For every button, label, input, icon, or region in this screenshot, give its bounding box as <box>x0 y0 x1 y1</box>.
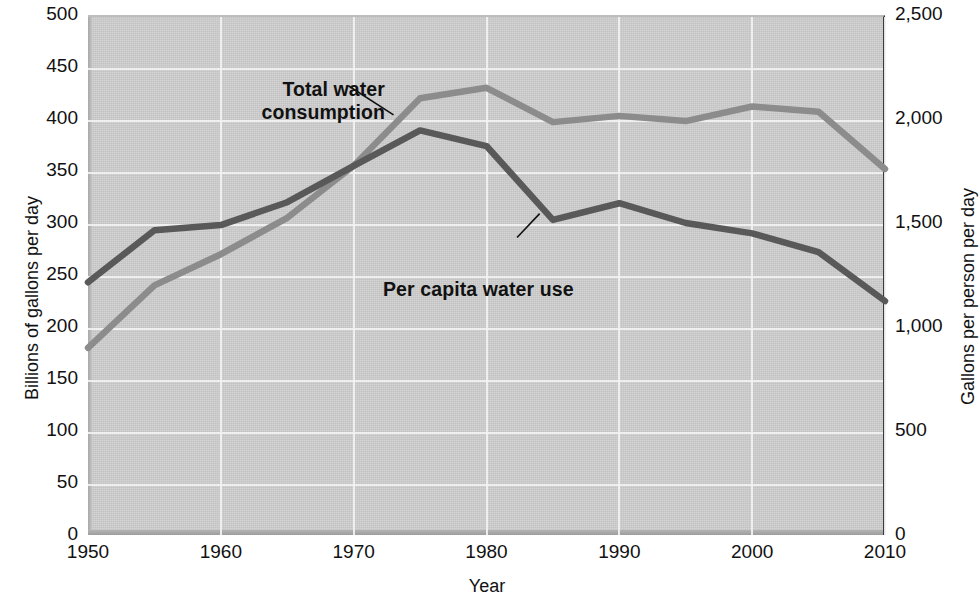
x-axis-tick: 1990 <box>564 541 674 563</box>
left-axis-tick: 500 <box>0 3 78 25</box>
right-axis-tick: 2,000 <box>895 107 975 129</box>
right-axis-tick: 500 <box>895 419 975 441</box>
x-axis-tick: 1950 <box>33 541 143 563</box>
scan-edge-strip <box>0 595 974 609</box>
x-axis-tick: 1960 <box>166 541 276 563</box>
left-axis-tick: 400 <box>0 107 78 129</box>
right-axis-tick: 2,500 <box>895 3 975 25</box>
left-axis-tick: 100 <box>0 419 78 441</box>
series-line-per-capita-water-use <box>88 130 885 301</box>
x-axis-tick: 1980 <box>432 541 542 563</box>
right-axis-title: Gallons per person per day <box>958 188 979 405</box>
x-axis-tick: 2000 <box>697 541 807 563</box>
series-line-total-water-consumption <box>88 88 885 348</box>
left-axis-tick: 50 <box>0 471 78 493</box>
annotation-total-water-consumption: Total water consumption <box>160 78 385 125</box>
left-axis-tick: 350 <box>0 159 78 181</box>
x-axis-title: Year <box>0 576 974 597</box>
left-axis-tick: 450 <box>0 55 78 77</box>
left-axis-title: Billions of gallons per day <box>22 196 43 400</box>
x-axis-tick: 1970 <box>299 541 409 563</box>
leader-line-per-capita-water-use <box>517 214 540 238</box>
x-axis-tick: 2010 <box>830 541 940 563</box>
annotation-per-capita-water-use: Per capita water use <box>383 278 713 301</box>
